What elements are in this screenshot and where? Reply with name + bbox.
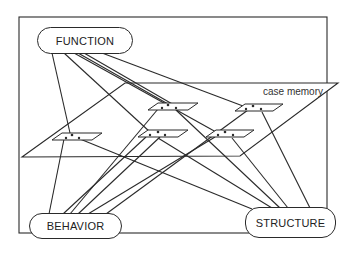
structure-label: STRUCTURE bbox=[256, 217, 326, 229]
structure-node: STRUCTURE bbox=[245, 207, 336, 238]
behavior-node: BEHAVIOR bbox=[29, 213, 122, 239]
behavior-label: BEHAVIOR bbox=[47, 220, 105, 232]
function-node: FUNCTION bbox=[37, 27, 133, 54]
case-memory-label: case memory bbox=[263, 86, 323, 97]
function-label: FUNCTION bbox=[56, 35, 114, 47]
link-structure-case-e bbox=[232, 138, 288, 208]
link-structure-case-c bbox=[262, 112, 310, 208]
link-function-case-a bbox=[52, 53, 70, 133]
